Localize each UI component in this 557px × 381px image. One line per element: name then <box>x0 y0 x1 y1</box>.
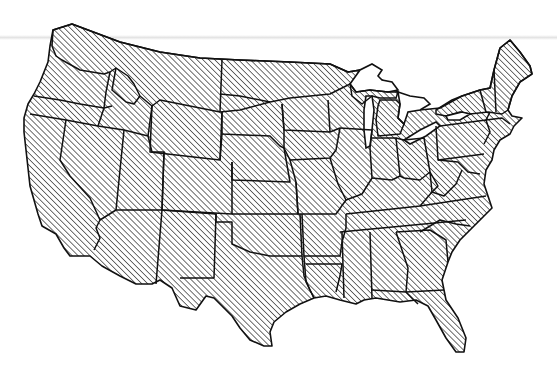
us-map <box>0 0 557 381</box>
lake-superior <box>350 64 398 92</box>
